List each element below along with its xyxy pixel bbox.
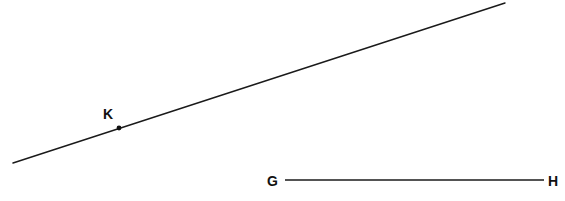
geometry-diagram: K G H (0, 0, 565, 201)
geometry-figure: K G H (0, 0, 565, 201)
point-g-label: G (267, 173, 278, 189)
point-k-label: K (103, 106, 113, 122)
line-through-k (13, 3, 505, 163)
point-k-dot (117, 126, 122, 131)
point-h-label: H (548, 173, 558, 189)
